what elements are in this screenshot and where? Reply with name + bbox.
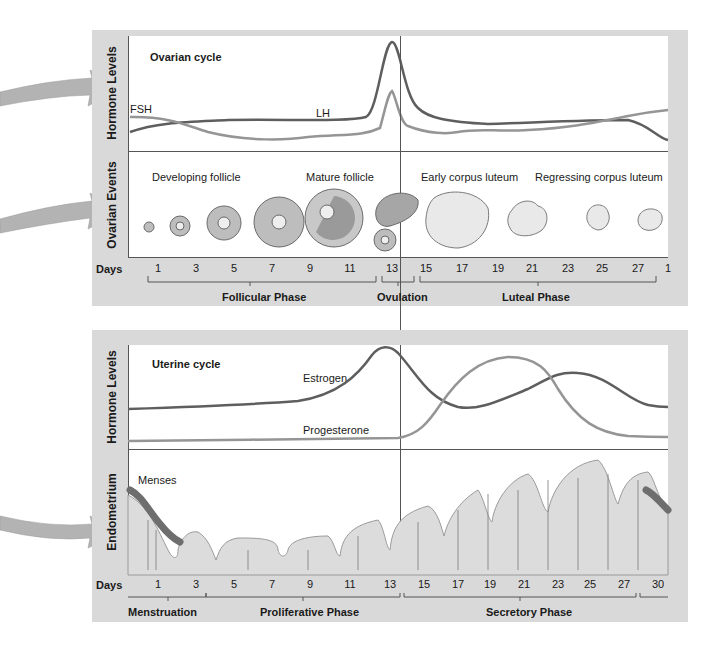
phase-secretory: Secretory Phase <box>486 606 572 618</box>
phase-ovulation: Ovulation <box>377 291 428 303</box>
phase-follicular: Follicular Phase <box>222 291 306 303</box>
y-axis-label-hormone-levels: Hormone Levels <box>105 347 119 447</box>
y-axis-label-ovarian-events: Ovarian Events <box>105 155 119 255</box>
uterine-hormone-lines <box>128 345 668 450</box>
days-label: Days <box>96 263 122 275</box>
y-axis-label-endometrium: Endometrium <box>105 462 119 562</box>
uterine-day-ticks: 1 3 5 7 9 11 13 15 17 19 21 23 25 27 30 <box>128 575 668 593</box>
phase-luteal: Luteal Phase <box>502 291 570 303</box>
ovarian-day-ticks: 1 3 5 7 9 11 13 15 17 19 21 23 25 27 1 <box>128 258 668 276</box>
endometrium-illustration <box>128 450 668 575</box>
y-axis-label-hormone-levels: Hormone Levels <box>105 43 119 143</box>
phase-menstruation: Menstruation <box>128 606 197 618</box>
uterine-phase-brackets <box>128 593 668 605</box>
follicle-illustrations <box>128 152 668 258</box>
ovarian-phase-brackets <box>128 276 668 288</box>
phase-proliferative: Proliferative Phase <box>260 606 359 618</box>
ovarian-hormone-lines <box>128 36 668 152</box>
days-label: Days <box>96 579 122 591</box>
